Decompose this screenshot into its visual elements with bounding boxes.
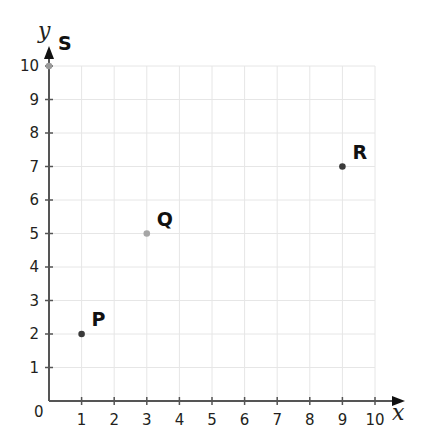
point-marker	[144, 230, 151, 237]
x-tick-label: 3	[142, 411, 152, 429]
tick-labels: 1234567891012345678910	[20, 57, 385, 429]
point-label: S	[58, 32, 72, 54]
point-q: Q	[144, 208, 173, 237]
point-label: R	[352, 141, 367, 163]
point-marker	[46, 63, 53, 70]
x-tick-label: 7	[272, 411, 282, 429]
x-tick-label: 2	[109, 411, 119, 429]
x-tick-label: 5	[207, 411, 217, 429]
y-tick-label: 4	[29, 258, 39, 276]
x-axis-label: x	[392, 400, 405, 425]
x-tick-label: 8	[305, 411, 315, 429]
point-label: P	[92, 308, 106, 330]
y-axis-label: y	[37, 18, 51, 43]
point-p: P	[78, 308, 105, 337]
x-tick-label: 10	[365, 411, 384, 429]
y-tick-label: 3	[29, 292, 39, 310]
y-tick-label: 7	[29, 158, 39, 176]
x-tick-label: 1	[77, 411, 87, 429]
y-tick-label: 9	[29, 91, 39, 109]
point-r: R	[339, 141, 367, 170]
x-tick-label: 4	[175, 411, 185, 429]
point-marker	[78, 331, 85, 338]
y-tick-label: 8	[29, 124, 39, 142]
grid-lines	[49, 66, 375, 401]
y-axis-arrow-icon	[44, 46, 54, 59]
y-tick-label: 1	[29, 359, 39, 377]
y-tick-label: 5	[29, 225, 39, 243]
point-marker	[339, 163, 346, 170]
x-tick-label: 9	[338, 411, 348, 429]
x-tick-label: 6	[240, 411, 250, 429]
y-tick-label: 6	[29, 191, 39, 209]
y-tick-label: 2	[29, 325, 39, 343]
origin-label: 0	[34, 403, 44, 421]
data-points: PQRS	[46, 32, 368, 337]
y-tick-label: 10	[20, 57, 39, 75]
point-label: Q	[157, 208, 173, 230]
coordinate-chart: 1234567891012345678910 PQRS x y 0	[0, 0, 430, 443]
